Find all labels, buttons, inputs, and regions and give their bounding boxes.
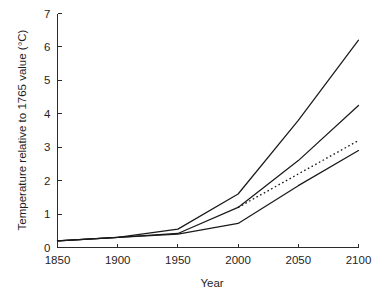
y-axis-title: Temperature relative to 1765 value (°C) bbox=[16, 29, 28, 230]
y-tick-label-6: 6 bbox=[44, 41, 50, 53]
y-axis-tick-labels: 01234567 bbox=[44, 8, 51, 254]
x-tick-label-2050: 2050 bbox=[286, 254, 312, 266]
x-tick-label-1850: 1850 bbox=[45, 254, 71, 266]
y-tick-label-4: 4 bbox=[44, 108, 51, 120]
x-axis-tick-labels: 185019001950200020502100 bbox=[45, 254, 372, 266]
y-tick-label-0: 0 bbox=[44, 242, 50, 254]
y-tick-label-1: 1 bbox=[44, 208, 50, 220]
y-tick-label-7: 7 bbox=[44, 8, 50, 20]
series-mid-high-scenario bbox=[58, 105, 359, 240]
series-low-scenario bbox=[58, 151, 359, 241]
y-tick-label-5: 5 bbox=[44, 74, 50, 86]
series-mid-scenario-dashed bbox=[238, 141, 358, 208]
data-series-group bbox=[58, 40, 359, 241]
x-tick-label-2000: 2000 bbox=[225, 254, 251, 266]
y-tick-label-3: 3 bbox=[44, 141, 50, 153]
x-tick-label-1900: 1900 bbox=[105, 254, 131, 266]
y-tick-label-2: 2 bbox=[44, 175, 50, 187]
chart-figure: 01234567 185019001950200020502100 Temper… bbox=[0, 0, 375, 293]
x-axis-title: Year bbox=[200, 277, 223, 289]
temperature-projection-chart: 01234567 185019001950200020502100 Temper… bbox=[0, 0, 375, 293]
x-tick-label-1950: 1950 bbox=[165, 254, 191, 266]
y-axis-ticks bbox=[58, 14, 62, 248]
series-high-scenario bbox=[58, 40, 359, 241]
x-axis-ticks bbox=[58, 244, 359, 248]
x-tick-label-2100: 2100 bbox=[346, 254, 372, 266]
